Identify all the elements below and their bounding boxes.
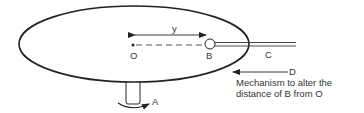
- label-y: y: [172, 24, 177, 34]
- label-o: O: [130, 51, 137, 61]
- label-d: D: [289, 67, 296, 77]
- caption-line-1: Mechanism to alter the: [236, 77, 332, 88]
- object-b: [205, 39, 215, 49]
- caption-line-2: distance of B from O: [236, 88, 332, 99]
- spindle: [126, 82, 140, 104]
- label-b: B: [206, 51, 212, 61]
- mechanism-caption: Mechanism to alter the distance of B fro…: [236, 77, 332, 99]
- label-c: C: [265, 50, 272, 60]
- center-point-o: [132, 44, 135, 47]
- label-a: A: [152, 97, 158, 107]
